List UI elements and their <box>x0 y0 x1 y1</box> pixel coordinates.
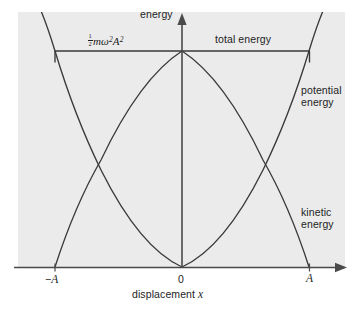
plot-canvas <box>0 0 361 310</box>
x-axis-title: displacement x <box>132 288 203 300</box>
potential-energy-label-line2: energy <box>301 96 353 108</box>
x-tick-label-minus-A: −A <box>45 273 58 285</box>
total-energy-formula: 1 2 mω2A2 <box>88 33 124 47</box>
potential-energy-label: potential energy <box>301 84 353 108</box>
x-axis-title-text: displacement <box>132 288 195 300</box>
formula-denominator: 2 <box>88 41 93 48</box>
formula-amplitude-symbol: A <box>113 35 120 47</box>
total-energy-label: total energy <box>215 33 271 45</box>
y-axis-title: energy <box>140 8 173 20</box>
formula-mass-symbol: m <box>93 35 101 47</box>
formula-omega-symbol: ω <box>101 35 109 47</box>
formula-one-half: 1 2 <box>88 33 93 47</box>
x-axis-title-variable: x <box>198 288 203 300</box>
shm-energy-diagram: energy 1 2 mω2A2 total energy potential … <box>0 0 361 310</box>
kinetic-energy-label: kinetic energy <box>301 206 353 230</box>
potential-energy-label-line1: potential <box>301 84 353 96</box>
formula-amplitude-exponent: 2 <box>120 35 124 44</box>
kinetic-energy-label-line2: energy <box>301 218 353 230</box>
x-tick-label-zero: 0 <box>178 273 184 285</box>
amplitude-symbol-left: A <box>51 273 58 285</box>
kinetic-energy-label-line1: kinetic <box>301 206 353 218</box>
x-tick-label-plus-A: A <box>306 272 313 284</box>
